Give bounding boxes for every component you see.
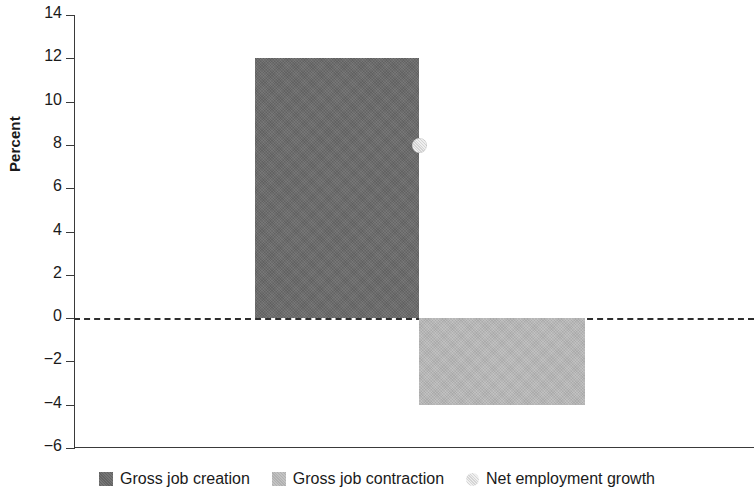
y-axis-tick <box>66 448 74 449</box>
y-axis-tick-label: 6 <box>16 177 62 195</box>
y-axis-tick <box>66 188 74 189</box>
y-axis-tick-label: 4 <box>16 221 62 239</box>
chart-container: Percent 14121086420−2−4−6 Gross job crea… <box>0 0 754 496</box>
y-axis-tick <box>66 15 74 16</box>
y-axis-tick-label: −4 <box>16 394 62 412</box>
bar-gross-job-creation <box>255 58 419 318</box>
legend-swatch-circle-light-icon <box>466 473 479 486</box>
legend-label-net-employment-growth: Net employment growth <box>486 470 655 488</box>
y-axis-tick <box>66 232 74 233</box>
y-axis-tick <box>66 361 74 362</box>
y-axis-tick <box>66 318 74 319</box>
y-axis-tick <box>66 275 74 276</box>
zero-reference-line <box>74 318 754 320</box>
y-axis-tick-label: 14 <box>16 4 62 22</box>
y-axis-tick <box>66 58 74 59</box>
y-axis-tick-label: −2 <box>16 350 62 368</box>
y-axis-tick-label: 8 <box>16 134 62 152</box>
y-axis-tick-label: 12 <box>16 47 62 65</box>
legend-swatch-square-light-icon <box>272 472 286 486</box>
y-axis-line <box>74 15 75 449</box>
y-axis-tick-label: 2 <box>16 264 62 282</box>
x-axis-line <box>74 447 754 448</box>
chart-legend: Gross job creation Gross job contraction… <box>0 470 754 488</box>
bar-gross-job-contraction <box>419 318 585 405</box>
legend-item-net-employment-growth: Net employment growth <box>466 470 655 488</box>
legend-label-gross-job-creation: Gross job creation <box>120 470 250 488</box>
y-axis-title-container: Percent <box>0 0 30 496</box>
y-axis-title: Percent <box>6 62 23 172</box>
y-axis-tick-label: −6 <box>16 437 62 455</box>
y-axis-tick-label: 0 <box>16 307 62 325</box>
y-axis-tick <box>66 102 74 103</box>
legend-label-gross-job-contraction: Gross job contraction <box>293 470 444 488</box>
legend-swatch-square-dark-icon <box>99 472 113 486</box>
legend-item-gross-job-contraction: Gross job contraction <box>272 470 444 488</box>
legend-item-gross-job-creation: Gross job creation <box>99 470 250 488</box>
y-axis-tick <box>66 145 74 146</box>
y-axis-tick <box>66 405 74 406</box>
y-axis-tick-label: 10 <box>16 91 62 109</box>
marker-net-employment-growth <box>412 138 427 153</box>
